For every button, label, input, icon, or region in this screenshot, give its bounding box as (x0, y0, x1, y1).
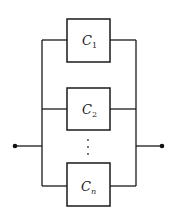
component-c2-subscript: 2 (92, 110, 97, 119)
component-c2-letter: C (82, 102, 92, 117)
component-cn: C n (67, 163, 110, 206)
parallel-system-diagram: C 1 C 2 C n (0, 0, 176, 221)
output-terminal (160, 144, 165, 149)
component-c1: C 1 (67, 19, 110, 62)
input-terminal (13, 144, 18, 149)
component-cn-subscript: n (91, 187, 96, 196)
component-c2: C 2 (67, 88, 110, 130)
component-c1-letter: C (82, 33, 92, 48)
component-c1-subscript: 1 (92, 41, 97, 50)
component-cn-letter: C (81, 179, 91, 194)
vertical-ellipsis (87, 139, 89, 155)
